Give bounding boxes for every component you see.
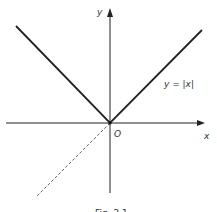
x-axis-arrow-icon (197, 120, 205, 126)
origin-label: O (114, 129, 121, 139)
dashed-line (37, 123, 110, 196)
origin-point (108, 121, 111, 124)
abs-value-graph: y x O y = |x| Fig. 2.1 (0, 0, 217, 212)
figure-caption: Fig. 2.1 (95, 208, 128, 212)
x-axis-label: x (203, 131, 210, 141)
abs-curve (16, 26, 202, 123)
function-label: y = |x| (163, 79, 194, 89)
y-axis-arrow-icon (107, 8, 113, 17)
y-axis-label: y (96, 7, 103, 17)
